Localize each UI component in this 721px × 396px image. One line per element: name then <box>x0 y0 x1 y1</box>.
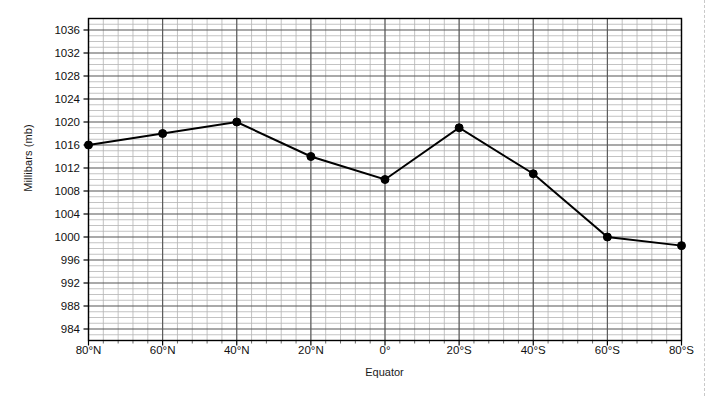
data-point-80S <box>678 242 686 250</box>
page-edge-artifact <box>704 0 705 396</box>
pressure-by-latitude-chart: Millibars (mb) Equator 10361032102810241… <box>0 0 721 396</box>
data-point-40N <box>233 118 241 126</box>
data-point-20N <box>307 153 315 161</box>
data-point-0 <box>381 176 389 184</box>
axis-tick-marks <box>84 30 682 346</box>
data-point-40S <box>529 170 537 178</box>
plot-area <box>0 0 721 396</box>
data-point-80N <box>85 141 93 149</box>
data-point-60N <box>159 130 167 138</box>
data-point-60S <box>603 233 611 241</box>
data-point-20S <box>455 124 463 132</box>
